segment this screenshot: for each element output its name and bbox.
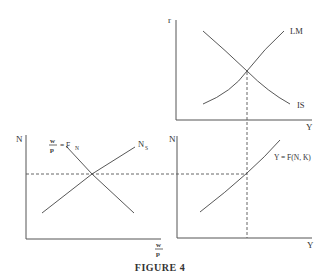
production-function-label: Y = F(N, K) [274,153,311,162]
islm-y-axis-label: r [168,15,171,25]
is-curve [203,31,290,104]
labor-market-panel: N w p w p = F N N S [16,134,163,258]
svg-text:p: p [156,250,160,258]
svg-text:p: p [50,146,54,154]
svg-text:N: N [75,145,79,151]
lm-curve-label: LM [290,26,303,36]
islm-panel: r Y LM IS [168,15,313,132]
svg-text:= F: = F [60,141,70,150]
svg-text:N: N [138,139,144,149]
islm-x-axis-label: Y [306,122,313,132]
production-panel: N Y Y = F(N, K) [169,134,314,250]
labor-x-axis-label: w p [155,241,163,258]
svg-text:S: S [145,145,148,151]
labor-demand-label: w p = F N [49,137,79,154]
svg-text:w: w [50,137,56,145]
labor-supply-label: N S [138,139,148,151]
is-curve-label: IS [297,100,305,110]
labor-supply-curve [42,147,135,213]
production-y-axis-label: N [169,134,176,144]
labor-y-axis-label: N [16,134,23,144]
figure-4-diagram: r Y LM IS N w p w p = F N N [0,0,330,279]
labor-demand-curve [66,146,134,213]
production-x-axis-label: Y [307,240,314,250]
production-function-curve [200,140,280,212]
figure-caption: FIGURE 4 [135,262,185,273]
svg-text:w: w [156,241,162,249]
